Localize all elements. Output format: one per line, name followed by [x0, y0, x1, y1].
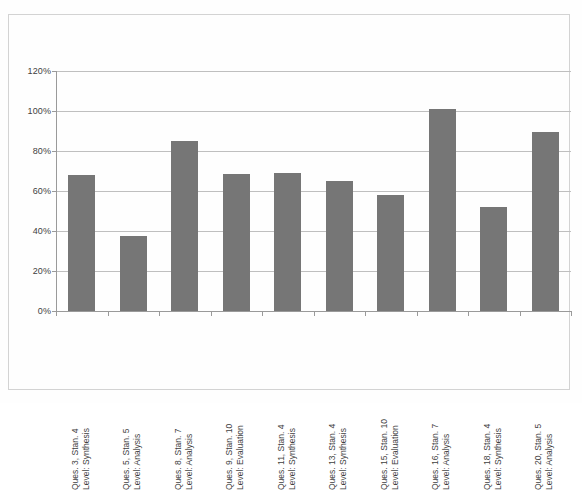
x-axis-label-line1: Ques. 15, Stan. 10 — [379, 404, 390, 490]
bar — [68, 175, 95, 311]
y-axis-tick-label: 120% — [11, 67, 51, 76]
gridline — [56, 191, 571, 192]
bar — [274, 173, 301, 311]
y-axis-tick-label: 60% — [11, 187, 51, 196]
x-axis-labels: Ques. 3, Stan. 4Level: SynthesisQues. 5,… — [56, 318, 572, 404]
gridline — [56, 111, 571, 112]
x-axis-tick-mark — [365, 312, 366, 316]
bar — [480, 207, 507, 311]
x-axis-label-line2: Level: Analysis — [184, 404, 195, 490]
x-axis-tick-mark — [314, 312, 315, 316]
x-axis-label-line2: Level: Analysis — [441, 404, 452, 490]
x-axis-category-label: Ques. 8, Stan. 7Level: Analysis — [173, 404, 199, 490]
x-axis-label-line1: Ques. 13, Stan. 4 — [327, 404, 338, 490]
x-axis-category-label: Ques. 5, Stan. 5Level: Analysis — [121, 404, 147, 490]
x-axis-category-label: Ques. 11, Stan. 4Level: Synthesis — [276, 404, 302, 490]
x-axis-tick-mark — [571, 312, 572, 316]
x-axis-label-line1: Ques. 20, Stan. 5 — [533, 404, 544, 490]
x-axis-category-label: Ques. 15, Stan. 10Level: Evaluation — [379, 404, 405, 490]
x-axis-category-label: Ques. 9, Stan. 10Level: Evaluation — [224, 404, 250, 490]
x-axis-label-line1: Ques. 5, Stan. 5 — [121, 404, 132, 490]
x-axis-tick-mark — [211, 312, 212, 316]
y-axis-tick-label: 0% — [11, 307, 51, 316]
x-axis-tick-mark — [468, 312, 469, 316]
x-axis-label-line2: Level: Synthesis — [338, 404, 349, 490]
x-axis-label-line2: Level: Synthesis — [287, 404, 298, 490]
x-axis-label-line1: Ques. 9, Stan. 10 — [224, 404, 235, 490]
x-axis-label-line1: Ques. 18, Stan. 4 — [482, 404, 493, 490]
x-axis-label-line2: Level: Evaluation — [390, 404, 401, 490]
x-axis-tick-mark — [520, 312, 521, 316]
chart-frame: 120%100%80%60%40%20%0% Ques. 3, Stan. 4L… — [8, 14, 570, 390]
bar — [377, 195, 404, 311]
x-axis-label-line2: Level: Synthesis — [493, 404, 504, 490]
x-axis-ticks — [56, 312, 572, 317]
bar — [532, 132, 559, 311]
x-axis-category-label: Ques. 13, Stan. 4Level: Synthesis — [327, 404, 353, 490]
x-axis-category-label: Ques. 16, Stan. 7Level: Analysis — [430, 404, 456, 490]
gridline — [56, 151, 571, 152]
bar — [223, 174, 250, 311]
x-axis-label-line2: Level: Synthesis — [81, 404, 92, 490]
x-axis-category-label: Ques. 20, Stan. 5Level: Analysis — [533, 404, 559, 490]
x-axis-label-line1: Ques. 3, Stan. 4 — [70, 404, 81, 490]
x-axis-label-line2: Level: Analysis — [132, 404, 143, 490]
bar — [120, 236, 147, 311]
x-axis-tick-mark — [262, 312, 263, 316]
x-axis-tick-mark — [56, 312, 57, 316]
bar — [326, 181, 353, 311]
x-axis-label-line1: Ques. 8, Stan. 7 — [173, 404, 184, 490]
plot-area — [56, 71, 571, 311]
x-axis-tick-mark — [417, 312, 418, 316]
y-axis-tick-label: 40% — [11, 227, 51, 236]
x-axis-category-label: Ques. 3, Stan. 4Level: Synthesis — [70, 404, 96, 490]
y-axis: 120%100%80%60%40%20%0% — [9, 71, 51, 312]
x-axis-label-line1: Ques. 11, Stan. 4 — [276, 404, 287, 490]
y-axis-tick-label: 20% — [11, 267, 51, 276]
x-axis-label-line2: Level: Analysis — [544, 404, 555, 490]
y-axis-line — [56, 71, 57, 312]
x-axis-label-line1: Ques. 16, Stan. 7 — [430, 404, 441, 490]
x-axis-category-label: Ques. 18, Stan. 4Level: Synthesis — [482, 404, 508, 490]
x-axis-tick-mark — [159, 312, 160, 316]
x-axis-tick-mark — [108, 312, 109, 316]
bar — [429, 109, 456, 311]
bar — [171, 141, 198, 311]
gridline — [56, 71, 571, 72]
y-axis-tick-label: 80% — [11, 147, 51, 156]
y-axis-tick-label: 100% — [11, 107, 51, 116]
x-axis-label-line2: Level: Evaluation — [235, 404, 246, 490]
